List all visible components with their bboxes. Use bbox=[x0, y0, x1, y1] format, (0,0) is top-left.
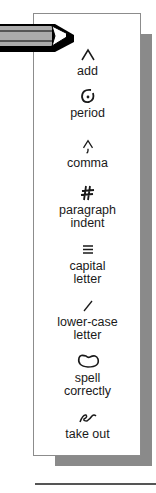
triple-underline-icon bbox=[78, 240, 98, 258]
mark-capital-letter: capital letter bbox=[33, 240, 142, 286]
mark-comma: comma bbox=[33, 137, 142, 170]
mark-paragraph-indent: paragraph indent bbox=[33, 184, 142, 230]
card-shadow-bottom bbox=[55, 455, 152, 466]
caret-icon bbox=[78, 45, 98, 63]
mark-label: comma bbox=[67, 156, 108, 170]
mark-lower-case-letter: lower-case letter bbox=[33, 296, 142, 342]
caret-comma-icon bbox=[78, 137, 98, 155]
paragraph-indent-icon bbox=[78, 184, 98, 202]
mark-period: period bbox=[33, 87, 142, 120]
delete-squiggle-icon bbox=[77, 408, 99, 426]
loop-circle-icon bbox=[73, 352, 103, 370]
mark-label: take out bbox=[65, 427, 109, 441]
mark-label: lower-case letter bbox=[48, 316, 128, 342]
mark-label: add bbox=[77, 64, 98, 78]
mark-take-out: take out bbox=[33, 408, 142, 441]
mark-label: paragraph indent bbox=[48, 204, 128, 230]
mark-label: spell correctly bbox=[58, 372, 118, 398]
horizontal-rule bbox=[35, 483, 156, 485]
mark-spell-correctly: spell correctly bbox=[33, 352, 142, 398]
circled-dot-icon bbox=[78, 87, 98, 105]
mark-label: capital letter bbox=[63, 260, 113, 286]
mark-label: period bbox=[70, 106, 105, 120]
slash-icon bbox=[78, 296, 98, 314]
mark-add: add bbox=[33, 45, 142, 78]
